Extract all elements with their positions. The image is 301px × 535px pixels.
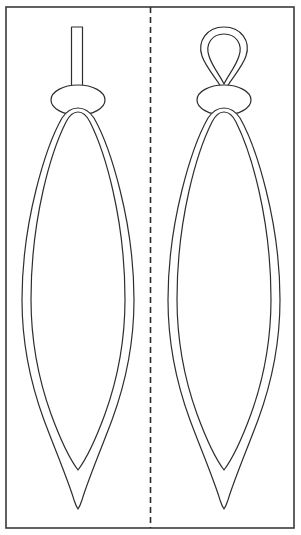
template-page: Ornament cutting template fold line cut …: [0, 0, 301, 535]
ornament-template-canvas: [0, 0, 301, 535]
ornament-left-stem: [72, 27, 83, 87]
